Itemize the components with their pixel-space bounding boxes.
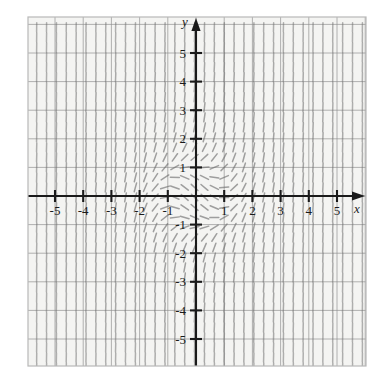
y-tick-label: 4 [180,74,187,89]
x-tick-label: -1 [162,203,173,218]
y-tick-label: -2 [175,246,186,261]
x-tick-label: -3 [106,203,117,218]
y-tick-label: 3 [180,103,187,118]
y-tick-label: -4 [175,303,186,318]
y-tick-label: -5 [175,332,186,347]
x-tick-label: -5 [50,203,61,218]
x-tick-label: -4 [78,203,89,218]
y-tick-label: -1 [175,217,186,232]
x-tick-label: 2 [249,203,256,218]
x-tick-label: 5 [334,203,341,218]
y-tick-label: 1 [180,160,187,175]
y-tick-label: -3 [175,274,186,289]
x-tick-label: -2 [134,203,145,218]
x-tick-label: 4 [306,203,313,218]
x-axis-label: x [353,201,360,216]
y-tick-label: 2 [180,131,187,146]
x-tick-label: 3 [277,203,284,218]
x-tick-label: 1 [221,203,228,218]
slope-field-figure: -5-4-3-2-11234554321-1-2-3-4-5 x y [0,0,382,378]
slope-field-plot: -5-4-3-2-11234554321-1-2-3-4-5 x y [0,0,382,378]
y-tick-label: 5 [180,46,187,61]
y-axis-label: y [180,14,188,29]
